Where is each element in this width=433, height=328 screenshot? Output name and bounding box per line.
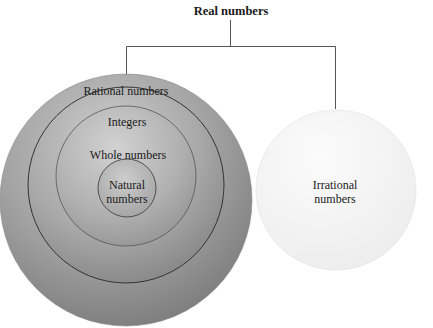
real-numbers-diagram: Real numbers Rational numbers Integers W… [0,0,433,328]
natural-numbers-label-line1: Natural [106,178,147,192]
irrational-numbers-label: Irrational numbers [313,178,358,206]
real-numbers-title: Real numbers [194,4,269,18]
diagram-graphics [0,0,433,328]
natural-numbers-label-line2: numbers [106,192,147,206]
natural-numbers-label: Natural numbers [106,178,147,206]
whole-numbers-label: Whole numbers [90,148,166,162]
irrational-numbers-label-line1: Irrational [313,178,358,192]
integers-label: Integers [108,115,147,129]
rational-numbers-label: Rational numbers [84,84,169,98]
irrational-numbers-label-line2: numbers [313,192,358,206]
